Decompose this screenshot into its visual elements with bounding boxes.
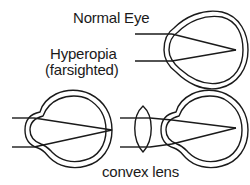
hyperopic-eye-figure (12, 90, 112, 167)
hyperopic-eye-outer (25, 90, 112, 167)
convex-lens-shape (135, 106, 152, 152)
convex-lens-figure (120, 106, 172, 152)
hyperopic-eye-inner (30, 96, 106, 162)
corrected-eye-figure (161, 90, 248, 167)
normal-eye-label: Normal Eye (73, 10, 149, 25)
diagram-canvas (0, 0, 250, 185)
normal-eye-inner (169, 16, 243, 83)
normal-eye-figure (135, 11, 248, 89)
hyperopia-label: Hyperopia (50, 46, 117, 61)
farsighted-label: (farsighted) (45, 62, 118, 77)
convex-lens-label: convex lens (102, 164, 179, 179)
